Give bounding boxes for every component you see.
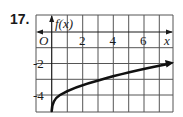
x-tick-4: 4 xyxy=(110,33,117,48)
function-curve xyxy=(52,64,168,111)
origin-label: O xyxy=(39,33,49,48)
y-tick-neg2: -2 xyxy=(33,56,44,71)
y-tick-neg4: -4 xyxy=(33,88,44,103)
x-axis-label: x xyxy=(163,33,170,48)
function-graph: O f(x) x 2 4 6 -2 -4 xyxy=(0,0,183,117)
y-axis-label: f(x) xyxy=(55,16,73,31)
x-tick-6: 6 xyxy=(140,33,147,48)
y-axis-up-arrow-icon xyxy=(49,15,54,22)
x-tick-2: 2 xyxy=(79,33,86,48)
